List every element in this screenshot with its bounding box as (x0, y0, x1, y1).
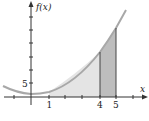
y-axis-label: f(x) (35, 2, 52, 12)
y-tick-label-5: 5 (22, 79, 28, 89)
x-tick-label-4: 4 (97, 100, 103, 110)
x-tick-label-1: 1 (47, 100, 53, 110)
chart-canvas: f(x) x 1 4 5 5 (0, 0, 149, 121)
shaded-region-4-to-5 (100, 28, 116, 97)
shaded-region-1-to-4 (49, 52, 100, 97)
y-axis-arrow-icon (29, 1, 34, 7)
x-axis-label: x (140, 84, 145, 94)
x-tick-label-5: 5 (113, 100, 119, 110)
x-axis-arrow-icon (142, 95, 148, 100)
